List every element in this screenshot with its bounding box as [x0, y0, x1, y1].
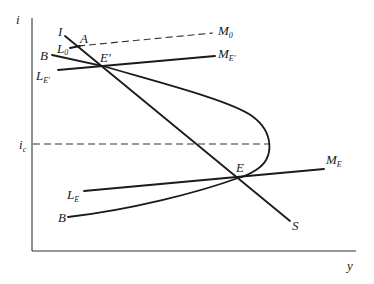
lm-e-prime-line	[58, 56, 215, 70]
point-e-prime-label: E'	[99, 50, 111, 65]
m0-dashed-line	[78, 33, 213, 46]
is-line	[65, 36, 290, 221]
point-a-label: A	[79, 31, 88, 46]
bb-lower-label: B	[58, 210, 66, 225]
is-end-label: S	[292, 218, 299, 233]
diagram-canvas: i y ic I S A L0 M0 B E' LE' ME' E ME LE …	[0, 0, 374, 284]
x-axis-label: y	[345, 258, 353, 273]
lm-e-line	[84, 169, 324, 191]
m0-label: M0	[217, 23, 233, 40]
lm-e-start-label: LE	[66, 187, 79, 204]
point-e-label: E	[235, 160, 244, 175]
bb-curve	[52, 55, 269, 217]
ic-label: ic	[19, 137, 27, 154]
y-axis-label: i	[16, 12, 20, 27]
lm-e-prime-start-label: LE'	[35, 68, 50, 85]
is-start-label: I	[57, 24, 63, 39]
l0-label: L0	[56, 41, 68, 57]
bb-upper-label: B	[40, 48, 48, 63]
lm-e-end-label: ME	[325, 152, 342, 169]
lm-e-prime-end-label: ME'	[217, 46, 236, 63]
